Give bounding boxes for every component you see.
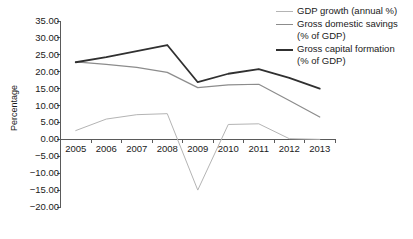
legend-item[interactable]: Gross domestic savings (% of GDP) [276,18,413,42]
legend-label: Gross domestic savings (% of GDP) [297,18,398,42]
legend-item[interactable]: GDP growth (annual %) [276,5,413,17]
legend-line-swatch [276,11,293,12]
x-tick-label: 2007 [122,144,152,154]
legend-label: GDP growth (annual %) [297,5,397,17]
x-tick-label: 2011 [244,144,274,154]
x-tick-label: 2010 [213,144,243,154]
x-tick-label: 2008 [152,144,182,154]
x-tick-label: 2013 [305,144,335,154]
legend: GDP growth (annual %)Gross domestic savi… [276,5,413,68]
legend-line-swatch [276,49,293,51]
line-chart: Percentage 35.0030.0025.0020.0015.0010.0… [0,0,413,239]
legend-line-swatch [276,24,293,25]
x-tick-label: 2009 [183,144,213,154]
legend-item[interactable]: Gross capital formation (% of GDP) [276,43,413,67]
x-tick-label: 2006 [91,144,121,154]
x-tick-label: 2012 [274,144,304,154]
x-tick-label: 2005 [61,144,91,154]
legend-label: Gross capital formation (% of GDP) [297,43,395,67]
